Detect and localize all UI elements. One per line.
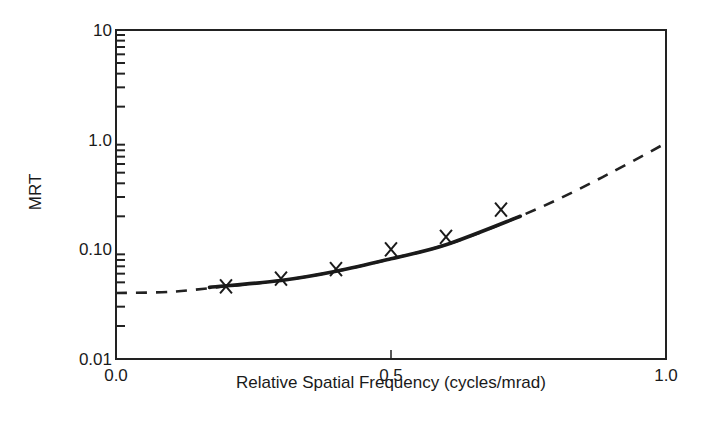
solid-fit-curve [210,216,521,287]
mrt-chart: 0.010.101.010 0.00.51.0 Relative Spatial… [0,0,710,427]
y-tick-labels: 0.010.101.010 [79,21,112,369]
x-tick-label: 0.0 [104,366,128,385]
dashed-extrapolation-curve [116,143,666,293]
data-point-x-marker [440,230,452,244]
data-point-x-marker [385,242,397,256]
x-tick-label: 1.0 [654,366,678,385]
y-axis-title: MRT [26,174,45,211]
y-minor-ticks [116,35,125,326]
plot-frame [116,30,666,359]
y-tick-label: 0.10 [79,240,112,259]
plot-border [116,30,666,359]
series-layer [116,143,666,293]
x-axis-title: Relative Spatial Frequency (cycles/mrad) [236,373,546,392]
y-tick-label: 10 [93,21,112,40]
y-tick-label: 1.0 [88,131,112,150]
data-point-x-marker [495,203,507,217]
